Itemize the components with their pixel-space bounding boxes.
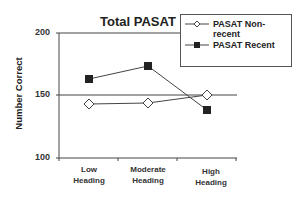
x-tick-high: High Heading — [183, 166, 239, 188]
legend-square-icon — [194, 42, 200, 48]
legend: PASAT Non- recent PASAT Recent — [180, 14, 292, 67]
recent-point-high — [203, 106, 211, 114]
recent-point-low — [85, 75, 93, 83]
x-tick-low: Low Heading — [61, 164, 117, 186]
nonrecent-point-moderate — [143, 98, 153, 108]
nonrecent-point-high — [202, 90, 212, 100]
x-tick-moderate: Moderate Heading — [120, 164, 176, 186]
legend-diamond-icon — [194, 21, 200, 27]
recent-point-moderate — [144, 62, 152, 70]
legend-recent-label: PASAT Recent — [213, 40, 275, 50]
nonrecent-point-low — [84, 99, 94, 109]
legend-nonrecent-label: PASAT Non- recent — [213, 19, 265, 39]
